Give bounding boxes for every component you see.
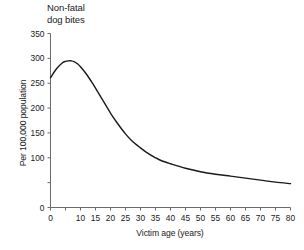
x-tick-label: 60 — [226, 213, 236, 223]
x-axis-ticks: 0101520253035404550556065707580 — [48, 208, 295, 223]
plot-area: 0100150200250300350 01015202530354045505… — [0, 0, 304, 250]
x-tick-label: 75 — [271, 213, 281, 223]
x-tick-label: 50 — [196, 213, 206, 223]
axis-lines — [51, 34, 291, 208]
x-tick-label: 45 — [181, 213, 191, 223]
x-tick-label: 30 — [136, 213, 146, 223]
x-tick-label: 35 — [151, 213, 161, 223]
y-tick-label: 100 — [31, 153, 45, 163]
x-tick-label: 10 — [76, 213, 86, 223]
x-tick-label: 80 — [286, 213, 296, 223]
y-tick-label: 0 — [40, 203, 45, 213]
data-line-non-fatal-dog-bites — [51, 61, 291, 184]
x-tick-label: 25 — [121, 213, 131, 223]
chart-figure: Non-fatal dog bites Per 100,000 populati… — [0, 0, 304, 250]
x-tick-label: 65 — [241, 213, 251, 223]
y-tick-label: 200 — [31, 103, 45, 113]
x-tick-label: 40 — [166, 213, 176, 223]
x-tick-label: 0 — [48, 213, 53, 223]
y-tick-label: 250 — [31, 78, 45, 88]
x-tick-label: 70 — [256, 213, 266, 223]
y-tick-label: 300 — [31, 53, 45, 63]
y-tick-label: 350 — [31, 29, 45, 39]
x-tick-label: 15 — [91, 213, 101, 223]
x-tick-label: 20 — [106, 213, 116, 223]
y-axis-ticks: 0100150200250300350 — [31, 29, 51, 213]
x-tick-label: 55 — [211, 213, 221, 223]
y-tick-label: 150 — [31, 128, 45, 138]
